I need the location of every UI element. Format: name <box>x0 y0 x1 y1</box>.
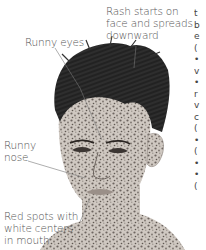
ear <box>147 133 164 166</box>
cropped-adjacent-text: t b e ( • v • r v c ( • ( • • ( <box>194 8 206 192</box>
label-rash: Rash starts on face and spreads downward <box>106 5 193 41</box>
label-runny-eyes: Runny eyes <box>25 36 84 48</box>
label-runny-nose: Runny nose <box>4 139 36 163</box>
label-mouth-spots: Red spots with white centers in mouth <box>4 210 78 246</box>
